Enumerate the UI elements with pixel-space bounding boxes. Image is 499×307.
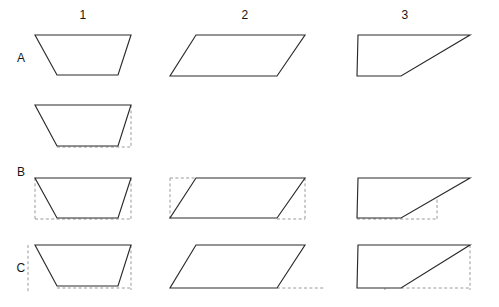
diagram-canvas: 1 2 3 A B C bbox=[0, 0, 499, 307]
figure-c3 bbox=[357, 245, 470, 290]
figure-a1 bbox=[35, 35, 131, 75]
figure-c2 bbox=[170, 245, 325, 288]
figure-a3 bbox=[357, 35, 470, 76]
figure-a2 bbox=[170, 35, 305, 76]
figure-c1-outline bbox=[35, 245, 131, 286]
figure-mid1-outline bbox=[35, 105, 131, 146]
figures-layer bbox=[0, 0, 499, 307]
figure-b2 bbox=[170, 178, 305, 219]
figure-c3-outline bbox=[357, 245, 470, 288]
figure-b1-outline bbox=[35, 178, 131, 218]
figure-mid1 bbox=[35, 105, 131, 147]
figure-a1-outline bbox=[35, 35, 131, 75]
figure-c1 bbox=[28, 245, 131, 292]
figure-a3-outline bbox=[357, 35, 470, 76]
figure-b1 bbox=[35, 178, 131, 219]
figure-a2-outline bbox=[170, 35, 305, 76]
figure-b3 bbox=[357, 178, 470, 219]
figure-b2-outline bbox=[170, 178, 305, 218]
figure-c2-outline bbox=[170, 245, 305, 288]
figure-b3-outline bbox=[357, 178, 470, 218]
